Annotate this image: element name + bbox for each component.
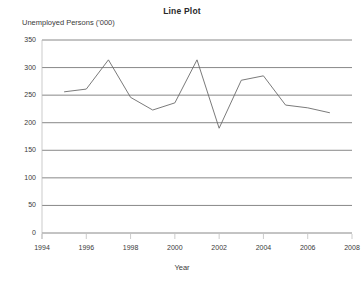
x-tick-label: 2004 xyxy=(248,244,278,251)
x-tick-label: 2000 xyxy=(160,244,190,251)
x-tick-label: 1998 xyxy=(116,244,146,251)
gridlines xyxy=(42,40,352,233)
x-tick-label: 1994 xyxy=(27,244,57,251)
y-tick-label: 350 xyxy=(8,36,36,43)
x-tick-marks xyxy=(42,234,352,239)
x-tick-label: 2002 xyxy=(204,244,234,251)
y-tick-label: 0 xyxy=(8,229,36,236)
series-line xyxy=(64,60,330,128)
x-tick-label: 1996 xyxy=(71,244,101,251)
data-line-series xyxy=(64,60,330,128)
y-tick-label: 250 xyxy=(8,91,36,98)
y-tick-label: 300 xyxy=(8,64,36,71)
y-tick-label: 200 xyxy=(8,119,36,126)
line-chart: Line Plot Unemployed Persons ('000) 0501… xyxy=(0,0,364,283)
y-tick-label: 150 xyxy=(8,146,36,153)
plot-area xyxy=(0,0,364,283)
x-tick-label: 2006 xyxy=(293,244,323,251)
y-tick-label: 50 xyxy=(8,201,36,208)
y-tick-label: 100 xyxy=(8,174,36,181)
x-axis-title: Year xyxy=(0,263,364,272)
x-tick-label: 2008 xyxy=(337,244,364,251)
